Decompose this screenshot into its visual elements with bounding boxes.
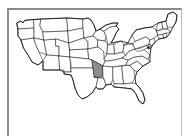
map-figure: Map of the United States with Arkansas h… <box>0 0 187 136</box>
us-map-svg: Map of the United States with Arkansas h… <box>8 9 182 135</box>
state-shapes-group <box>17 12 177 104</box>
state-florida <box>114 83 145 104</box>
chesapeake-marker-icon <box>147 46 150 49</box>
state-washington <box>17 20 34 30</box>
state-arizona <box>43 55 60 70</box>
state-texas <box>64 68 98 99</box>
state-new-mexico <box>59 56 71 72</box>
state-montana <box>40 18 68 32</box>
state-indiana <box>107 44 115 54</box>
